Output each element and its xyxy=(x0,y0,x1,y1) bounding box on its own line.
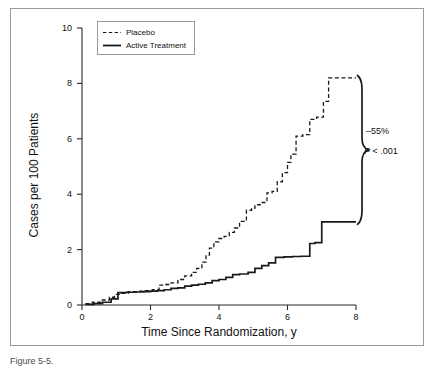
legend-swatch-dashed-icon xyxy=(103,29,121,36)
y-axis-title: Cases per 100 Patients xyxy=(27,75,41,275)
legend-label-placebo: Placebo xyxy=(126,29,155,37)
y-tick-marks xyxy=(77,28,82,305)
series-active-treatment-step xyxy=(85,222,356,305)
annotation-reduction: –55% xyxy=(366,126,389,136)
y-tick-label-4: 4 xyxy=(58,190,72,199)
chart-legend: Placebo Active Treatment xyxy=(97,21,195,55)
x-axis-title: Time Since Randomization, y xyxy=(82,325,356,339)
x-tick-label-8: 8 xyxy=(353,313,358,322)
annotation-p-value: P < .001 xyxy=(364,146,398,156)
y-tick-label-10: 10 xyxy=(55,24,72,33)
y-tick-label-2: 2 xyxy=(58,245,72,254)
figure-container: 0 2 4 6 8 10 0 2 4 6 8 Time Since Random… xyxy=(0,0,436,370)
legend-item-placebo: Placebo xyxy=(103,26,189,39)
figure-caption: Figure 5-5. xyxy=(10,356,426,368)
axes xyxy=(77,28,356,310)
x-tick-label-0: 0 xyxy=(79,313,84,322)
p-value-text: < .001 xyxy=(370,146,398,156)
x-tick-label-6: 6 xyxy=(285,313,290,322)
legend-label-active-treatment: Active Treatment xyxy=(126,42,186,50)
legend-item-active-treatment: Active Treatment xyxy=(103,39,189,52)
y-tick-label-6: 6 xyxy=(58,134,72,143)
y-tick-label-0: 0 xyxy=(58,301,72,310)
legend-swatch-solid-icon xyxy=(103,42,121,49)
x-tick-label-4: 4 xyxy=(216,313,221,322)
y-tick-label-8: 8 xyxy=(58,79,72,88)
series-placebo-step xyxy=(85,78,356,304)
x-tick-label-2: 2 xyxy=(148,313,153,322)
x-tick-marks xyxy=(82,305,356,310)
